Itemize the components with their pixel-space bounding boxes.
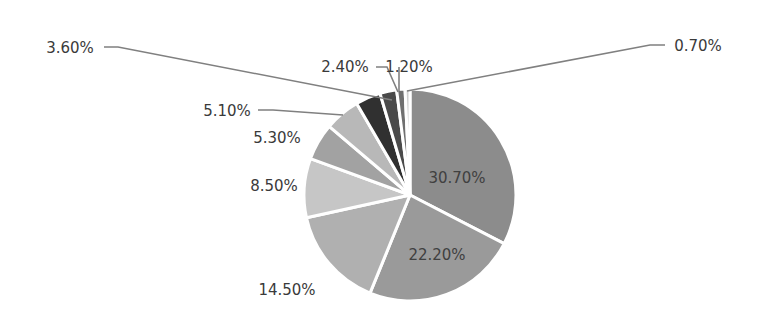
- label-0-70: 0.70%: [674, 37, 722, 55]
- label-14-50: 14.50%: [258, 281, 315, 299]
- pie-chart: 30.70% 22.20% 14.50% 8.50% 5.30% 5.10% 3…: [0, 0, 772, 325]
- label-3-60: 3.60%: [46, 39, 94, 57]
- leader-line-5-10: [258, 110, 343, 115]
- leader-line-0-70: [407, 45, 665, 91]
- label-5-10: 5.10%: [203, 102, 251, 120]
- label-5-30: 5.30%: [253, 129, 301, 147]
- label-2-40: 2.40%: [321, 58, 369, 76]
- label-1-20: 1.20%: [385, 58, 433, 76]
- pie-slices: [304, 89, 516, 301]
- label-22-20: 22.20%: [408, 246, 465, 264]
- label-30-70: 30.70%: [428, 169, 485, 187]
- label-8-50: 8.50%: [250, 177, 298, 195]
